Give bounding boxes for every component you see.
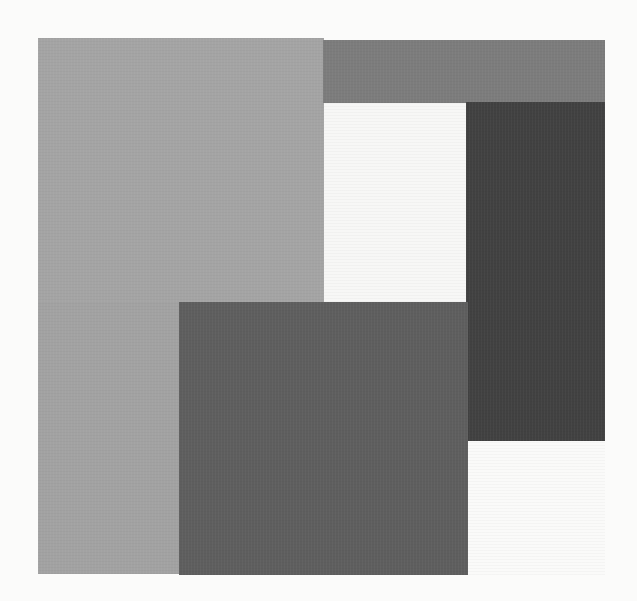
mid-gray-top-band-block: [323, 40, 605, 103]
dark-gray-bottom-center-block: [179, 302, 468, 575]
abstract-geometric-artwork: [0, 0, 637, 601]
light-gray-bottom-left-block: [38, 302, 180, 574]
dark-right-block: [466, 102, 605, 441]
white-center-block: [324, 103, 467, 302]
white-bottom-right-block: [468, 441, 605, 575]
light-gray-top-left-block: [38, 38, 324, 303]
